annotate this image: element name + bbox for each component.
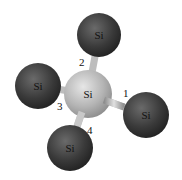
bond-label-3: 3 — [57, 100, 63, 112]
svg-text:Si: Si — [141, 109, 150, 121]
bond-4-front — [77, 112, 82, 126]
neighbor-atom-right: Si — [123, 92, 169, 138]
center-atom: Si — [64, 70, 112, 118]
bond-label-2: 2 — [79, 56, 85, 68]
bond-label-1: 1 — [123, 87, 129, 99]
tetrahedral-si-diagram: Si Si Si Si Si 1 2 3 4 — [0, 0, 182, 180]
diagram-canvas: Si Si Si Si Si 1 2 3 4 — [0, 0, 182, 180]
neighbor-atom-left: Si — [15, 63, 61, 109]
svg-text:Si: Si — [33, 80, 42, 92]
neighbor-atom-top: Si — [77, 13, 121, 57]
bond-label-4: 4 — [87, 124, 93, 136]
svg-text:Si: Si — [83, 88, 92, 100]
svg-text:Si: Si — [65, 142, 74, 154]
svg-text:Si: Si — [94, 29, 103, 41]
